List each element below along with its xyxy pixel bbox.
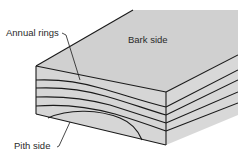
board-illustration	[0, 0, 238, 158]
pith-side-label: Pith side	[14, 141, 50, 151]
bark-side-label: Bark side	[128, 35, 168, 45]
annual-rings-label: Annual rings	[6, 28, 59, 38]
board-diagram: Annual rings Bark side Pith side	[0, 0, 238, 158]
